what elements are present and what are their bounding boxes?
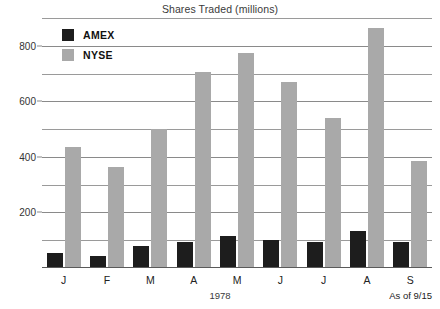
bar-group xyxy=(263,18,297,268)
bar-amex-a-7 xyxy=(350,231,366,269)
x-tick-label-5: J xyxy=(278,274,283,286)
y-tick-label-800: 800 xyxy=(19,40,36,51)
bar-amex-j-5 xyxy=(263,240,279,268)
chart-title: Shares Traded (millions) xyxy=(0,3,440,15)
y-tick-label-400: 400 xyxy=(19,151,36,162)
bar-nyse-j-6 xyxy=(325,118,341,268)
x-axis-title: 1978 xyxy=(0,290,440,301)
x-tick-label-6: J xyxy=(321,274,326,286)
bar-group xyxy=(307,18,341,268)
bar-amex-m-4 xyxy=(220,236,236,268)
x-tick-label-7: A xyxy=(363,274,370,286)
bar-nyse-m-4 xyxy=(238,53,254,268)
bar-amex-s-8 xyxy=(393,242,409,268)
bar-nyse-m-2 xyxy=(151,129,167,268)
bar-nyse-a-3 xyxy=(195,72,211,268)
nyse-swatch-icon xyxy=(62,49,74,61)
chart-legend: AMEX NYSE xyxy=(62,25,115,65)
legend-item-nyse: NYSE xyxy=(62,45,115,65)
x-tick-label-0: J xyxy=(61,274,66,286)
amex-swatch-icon xyxy=(62,29,74,41)
x-axis-baseline xyxy=(42,267,432,268)
bar-amex-a-3 xyxy=(177,242,193,268)
x-tick-label-8: S xyxy=(407,274,414,286)
bar-nyse-j-5 xyxy=(281,82,297,268)
bar-amex-j-0 xyxy=(47,253,63,268)
bar-nyse-j-0 xyxy=(65,147,81,268)
y-tick-label-200: 200 xyxy=(19,207,36,218)
x-tick-label-2: M xyxy=(146,274,155,286)
bar-amex-j-6 xyxy=(307,242,323,268)
bar-group xyxy=(393,18,427,268)
x-tick-label-4: M xyxy=(233,274,242,286)
legend-label-nyse: NYSE xyxy=(83,49,113,61)
bar-group xyxy=(220,18,254,268)
bar-nyse-f-1 xyxy=(108,167,124,268)
bar-group xyxy=(177,18,211,268)
bar-amex-m-2 xyxy=(133,246,149,268)
bar-group xyxy=(133,18,167,268)
x-tick-label-1: F xyxy=(104,274,110,286)
chart-footnote: As of 9/15 xyxy=(389,290,432,301)
bar-group xyxy=(350,18,384,268)
bar-nyse-a-7 xyxy=(368,28,384,268)
shares-traded-bar-chart: Shares Traded (millions) 200400600800 JF… xyxy=(0,0,440,309)
bar-nyse-s-8 xyxy=(411,161,427,268)
y-tick-label-600: 600 xyxy=(19,96,36,107)
x-tick-label-3: A xyxy=(190,274,197,286)
legend-item-amex: AMEX xyxy=(62,25,115,45)
legend-label-amex: AMEX xyxy=(83,29,115,41)
